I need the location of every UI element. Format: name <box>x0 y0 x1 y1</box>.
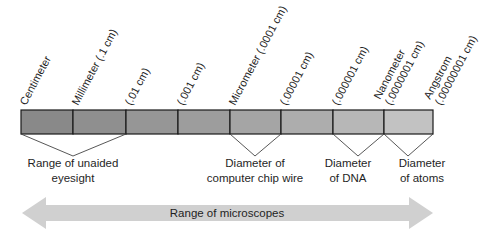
bracket-dna <box>333 134 384 156</box>
bracket-chip-wire <box>230 134 281 156</box>
caption-eyesight-line2: eyesight <box>52 172 96 184</box>
caption-dna-line1: Diameter <box>325 157 372 169</box>
callout-brackets <box>21 134 433 156</box>
scale-label-micrometer: Micrometer (.0001 cm) <box>226 4 289 107</box>
scale-cell-000001cm <box>333 110 384 134</box>
scale-label-centimeter: Centimeter <box>17 54 53 107</box>
scale-cell-millimeter <box>73 110 126 134</box>
scale-labels: Centimeter Millimeter (.1 cm) (.01 cm) (… <box>17 4 479 107</box>
caption-atoms-line2: of atoms <box>400 172 444 184</box>
caption-eyesight-line1: Range of unaided <box>28 157 119 169</box>
caption-chip-wire-line1: Diameter of <box>225 157 285 169</box>
scale-label-000001cm: (.000001 cm) <box>329 44 370 107</box>
scale-cell-00001cm <box>281 110 333 134</box>
caption-chip-wire-line2: computer chip wire <box>207 172 304 184</box>
scale-label-00001cm: (.00001 cm) <box>277 49 315 106</box>
callout-captions: Range of unaided eyesight Diameter of co… <box>28 157 446 184</box>
scale-cell-micrometer <box>230 110 281 134</box>
arrow-label: Range of microscopes <box>170 207 285 219</box>
caption-atoms-line1: Diameter <box>399 157 446 169</box>
caption-dna-line2: of DNA <box>329 172 366 184</box>
scale-label-001cm: (.001 cm) <box>174 60 206 107</box>
scale-cell-nanometer <box>384 110 433 134</box>
scale-cell-01cm <box>126 110 178 134</box>
scale-label-01cm: (.01 cm) <box>122 66 152 107</box>
microscope-range-arrow: Range of microscopes <box>22 197 433 229</box>
scale-bar <box>21 110 433 134</box>
scale-cell-001cm <box>178 110 230 134</box>
scale-cell-centimeter <box>21 110 73 134</box>
microscopy-scale-diagram: Centimeter Millimeter (.1 cm) (.01 cm) (… <box>0 0 485 244</box>
bracket-atoms <box>384 134 433 156</box>
bracket-unaided-eyesight <box>21 134 126 156</box>
scale-label-millimeter: Millimeter (.1 cm) <box>69 27 119 107</box>
